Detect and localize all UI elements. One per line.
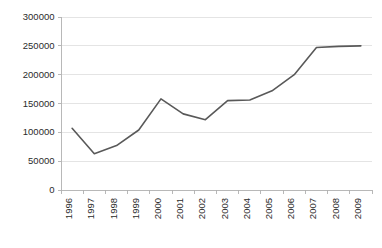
y-axis-tick-label: 200000: [23, 69, 55, 80]
y-axis-tick-labels: 050000100000150000200000250000300000: [23, 11, 55, 195]
y-axis-tick-label: 300000: [23, 11, 55, 22]
x-axis-tick-label: 2004: [241, 198, 252, 219]
x-axis-tick-label: 2006: [285, 198, 296, 219]
y-axis-tick-label: 150000: [23, 98, 55, 109]
x-axis-tick-label: 2007: [307, 198, 318, 219]
x-axis-tick-label: 2002: [196, 198, 207, 219]
x-axis-tick-label: 1999: [130, 198, 141, 219]
y-axis-tick-label: 50000: [28, 155, 54, 166]
x-axis-tick-label: 2005: [263, 198, 274, 219]
x-axis-tick-label: 2000: [152, 198, 163, 219]
x-axis-tick-label: 1997: [85, 198, 96, 219]
x-axis-tick-labels: 1996199719981999200020012002200320042005…: [63, 198, 363, 219]
gridlines-group: [61, 17, 372, 161]
x-axis-tick-label: 2009: [352, 198, 363, 219]
line-chart: 050000100000150000200000250000300000 199…: [0, 0, 382, 248]
y-axis-tick-label: 100000: [23, 126, 55, 137]
x-axis-tick-label: 1996: [63, 198, 74, 219]
y-axis-tick-marks: [58, 17, 62, 190]
data-series-line: [72, 46, 361, 154]
x-axis-tick-label: 2008: [330, 198, 341, 219]
x-axis-tick-label: 1998: [108, 198, 119, 219]
x-axis-tick-label: 2001: [174, 198, 185, 219]
y-axis-tick-label: 250000: [23, 40, 55, 51]
x-axis-tick-marks: [61, 190, 372, 194]
y-axis-tick-label: 0: [49, 184, 54, 195]
chart-canvas: 050000100000150000200000250000300000 199…: [0, 0, 382, 248]
x-axis-tick-label: 2003: [219, 198, 230, 219]
